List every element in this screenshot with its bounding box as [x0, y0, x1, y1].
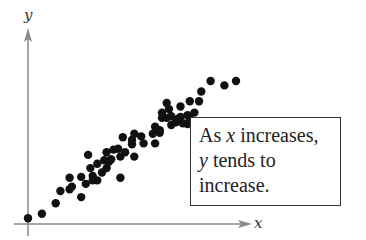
- data-point: [24, 214, 32, 222]
- data-point: [77, 193, 85, 201]
- data-point: [121, 148, 129, 156]
- data-point: [52, 199, 60, 207]
- data-point: [56, 187, 64, 195]
- data-point: [130, 130, 138, 138]
- annotation-line-1: As x increases,: [199, 123, 340, 148]
- data-point: [68, 182, 76, 190]
- data-point: [190, 108, 198, 116]
- data-point: [206, 77, 214, 85]
- data-point: [186, 97, 194, 105]
- data-point: [86, 164, 94, 172]
- data-point: [38, 210, 46, 218]
- data-point: [195, 97, 203, 105]
- data-point: [163, 99, 171, 107]
- annotation-text: increases,: [235, 124, 318, 146]
- annotation-line-3: increase.: [199, 173, 340, 198]
- annotation-box: As x increases, y tends to increase.: [190, 117, 341, 206]
- data-point: [197, 87, 205, 95]
- data-point: [77, 173, 85, 181]
- data-point: [116, 174, 124, 182]
- annotation-variable-y: y: [199, 149, 208, 171]
- data-point: [65, 174, 73, 182]
- data-point: [172, 118, 180, 126]
- y-axis: [24, 28, 32, 236]
- data-point: [139, 139, 147, 147]
- annotation-text: tends to: [208, 149, 276, 171]
- data-point: [107, 155, 115, 163]
- data-point: [232, 77, 240, 85]
- data-point: [176, 102, 184, 110]
- y-axis-label: y: [24, 6, 32, 24]
- annotation-text: As: [199, 124, 226, 146]
- x-axis: [14, 220, 252, 228]
- data-point: [130, 152, 138, 160]
- data-point: [220, 81, 228, 89]
- data-point: [89, 172, 97, 180]
- annotation-line-2: y tends to: [199, 148, 340, 173]
- annotation-variable-x: x: [226, 124, 235, 146]
- data-point: [119, 133, 127, 141]
- x-axis-label: x: [254, 214, 262, 232]
- data-point: [156, 129, 164, 137]
- data-point: [84, 151, 92, 159]
- data-point: [151, 139, 159, 147]
